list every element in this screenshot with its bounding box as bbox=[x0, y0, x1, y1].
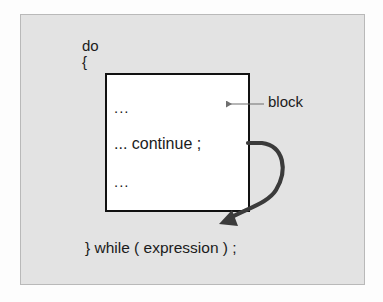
block-line-ellipsis-bottom: ... bbox=[114, 174, 130, 189]
diagram-figure: do { ... ... continue ; ... block } whil… bbox=[0, 0, 383, 302]
block-line-continue: ... continue ; bbox=[114, 136, 201, 152]
brace-open: { bbox=[82, 54, 87, 69]
while-condition-line: } while ( expression ) ; bbox=[85, 240, 237, 256]
keyword-do: do bbox=[82, 38, 99, 53]
block-line-ellipsis-top: ... bbox=[114, 100, 130, 115]
callout-label-block: block bbox=[268, 94, 303, 109]
